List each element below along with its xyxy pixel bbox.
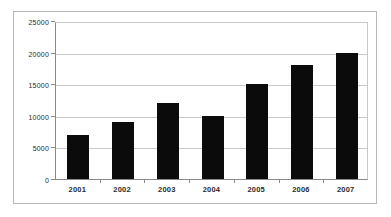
gridline: [56, 22, 367, 23]
y-axis-tick-mark: [51, 21, 55, 22]
x-axis-tick-label: 2005: [247, 185, 265, 194]
bar: [291, 65, 313, 179]
bar: [67, 135, 89, 179]
y-axis-tick-mark: [51, 84, 55, 85]
x-axis-tick-label: 2004: [203, 185, 221, 194]
y-axis-tick-label: 10000: [29, 113, 49, 120]
y-axis-tick-label: 0: [45, 177, 49, 184]
y-axis-tick-label: 20000: [29, 50, 49, 57]
bar-chart-figure: 0500010000150002000025000 20012002200320…: [0, 0, 391, 217]
x-axis-tick-label: 2003: [158, 185, 176, 194]
y-axis-tick-mark: [51, 179, 55, 180]
x-axis-tick-label: 2007: [337, 185, 355, 194]
bar: [202, 116, 224, 179]
x-axis-tick-mark: [279, 180, 280, 183]
gridline: [56, 85, 367, 86]
x-axis-tick-label: 2002: [113, 185, 131, 194]
x-axis-tick-mark: [323, 180, 324, 183]
x-axis-tick-mark: [100, 180, 101, 183]
plot-area: [55, 22, 368, 180]
x-axis-tick-mark: [144, 180, 145, 183]
bar: [157, 103, 179, 179]
y-axis-tick-mark: [51, 147, 55, 148]
x-axis-tick-mark: [189, 180, 190, 183]
bar: [246, 84, 268, 179]
y-axis-tick-label: 5000: [33, 145, 49, 152]
y-axis-tick-label: 15000: [29, 82, 49, 89]
y-axis-tick-mark: [51, 53, 55, 54]
x-axis-tick-mark: [234, 180, 235, 183]
y-axis-tick-label: 25000: [29, 19, 49, 26]
bar: [112, 122, 134, 179]
x-axis-tick-label: 2006: [292, 185, 310, 194]
gridline: [56, 54, 367, 55]
y-axis-tick-mark: [51, 116, 55, 117]
bar: [336, 53, 358, 179]
x-axis-tick-label: 2001: [69, 185, 87, 194]
